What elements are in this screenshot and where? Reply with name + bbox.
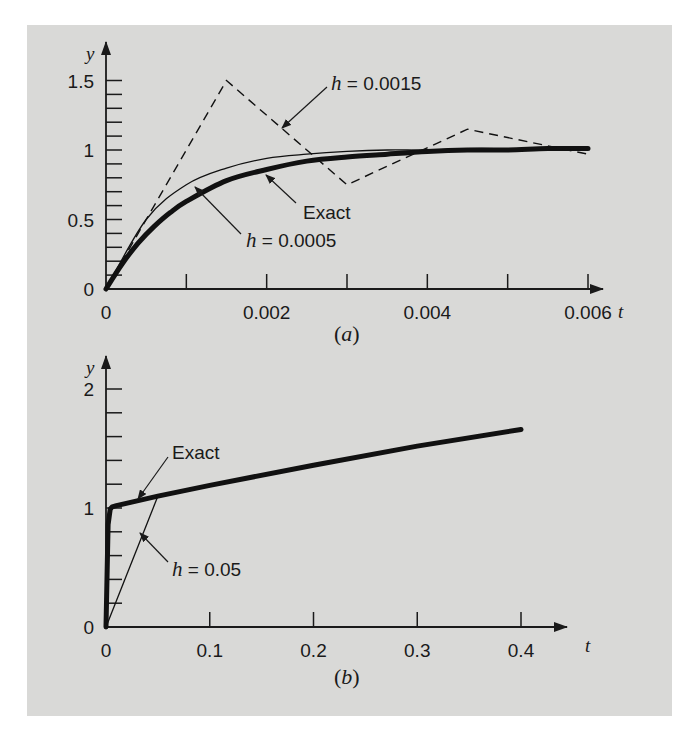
chart-a-series-h0015 xyxy=(106,81,588,290)
y-tick-label: 0 xyxy=(83,279,94,300)
chart-b-label-exact: Exact xyxy=(172,442,220,463)
x-tick-label: 0 xyxy=(101,640,112,661)
chart-b-label-h005: h = 0.05 xyxy=(172,557,241,581)
chart-a-ylabel: y xyxy=(84,43,95,64)
x-tick-label: 0.1 xyxy=(197,640,223,661)
y-tick-label: 0 xyxy=(83,617,94,638)
chart-a-caption: (a) xyxy=(334,321,360,346)
chart-b-xlabel: t xyxy=(585,635,591,656)
x-tick-label: 0.4 xyxy=(508,640,535,661)
chart-b-h005-pointer xyxy=(140,533,168,562)
chart-a-label-exact: Exact xyxy=(303,202,351,223)
chart-a-ticks xyxy=(106,81,588,290)
chart-b: y t 00.10.20.30.4012 Exact h = 0.05 (b) xyxy=(83,356,591,689)
chart-a-exact-pointer xyxy=(266,175,296,203)
chart-b-caption: (b) xyxy=(334,664,360,689)
x-tick-label: 0 xyxy=(101,302,112,323)
x-tick-label: 0.3 xyxy=(404,640,430,661)
y-tick-label: 0.5 xyxy=(68,210,94,231)
y-tick-label: 2 xyxy=(83,379,94,400)
chart-a-label-h0015: h = 0.0015 xyxy=(331,71,421,95)
y-tick-label: 1.5 xyxy=(68,71,94,92)
chart-b-ylabel: y xyxy=(84,357,95,378)
chart-a-h0005-pointer xyxy=(195,187,241,234)
chart-b-tick-labels: 00.10.20.30.4012 xyxy=(83,379,534,661)
x-tick-label: 0.004 xyxy=(404,302,452,323)
chart-a-xlabel: t xyxy=(618,301,624,322)
chart-a-tick-labels: 00.0020.0040.00600.511.5 xyxy=(68,71,612,324)
chart-b-series-h005 xyxy=(106,496,158,627)
y-tick-label: 1 xyxy=(83,140,94,161)
x-tick-label: 0.006 xyxy=(564,302,612,323)
figure: y t 00.0020.0040.00600.511.5 h = 0.0015 … xyxy=(0,0,700,744)
chart-a-label-h0005: h = 0.0005 xyxy=(246,228,336,252)
y-tick-label: 1 xyxy=(83,498,94,519)
chart-b-series-exact xyxy=(106,430,521,628)
chart-b-ticks xyxy=(106,389,521,627)
chart-a-h0015-pointer xyxy=(282,87,327,128)
chart-a: y t 00.0020.0040.00600.511.5 h = 0.0015 … xyxy=(68,42,624,346)
x-tick-label: 0.002 xyxy=(243,302,291,323)
x-tick-label: 0.2 xyxy=(300,640,326,661)
